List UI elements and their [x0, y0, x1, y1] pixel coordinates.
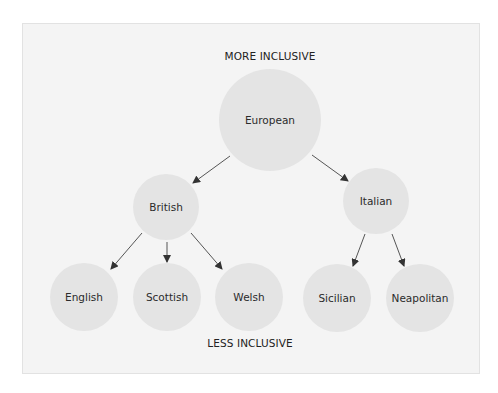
node-british: British — [133, 174, 199, 240]
node-scottish: Scottish — [133, 263, 201, 331]
node-english: English — [50, 263, 118, 331]
edge-british-english — [111, 233, 142, 269]
node-welsh: Welsh — [215, 263, 283, 331]
node-italian: Italian — [343, 168, 409, 234]
node-neapolitan: Neapolitan — [386, 264, 454, 332]
edge-italian-sicilian — [353, 234, 365, 266]
node-sicilian-label: Sicilian — [318, 292, 355, 304]
node-european: European — [219, 69, 321, 171]
node-italian-label: Italian — [360, 195, 393, 207]
edge-italian-neapolitan — [392, 234, 404, 266]
node-english-label: English — [65, 291, 103, 303]
edge-european-italian — [312, 155, 348, 181]
edge-european-british — [193, 156, 230, 183]
edge-british-welsh — [191, 233, 222, 269]
less-inclusive-label: LESS INCLUSIVE — [207, 337, 292, 349]
node-welsh-label: Welsh — [233, 291, 264, 303]
node-british-label: British — [149, 201, 183, 213]
more-inclusive-label: MORE INCLUSIVE — [225, 50, 316, 62]
node-sicilian: Sicilian — [303, 264, 371, 332]
hierarchy-diagram: MORE INCLUSIVE European British Italian … — [0, 0, 498, 393]
node-european-label: European — [245, 114, 295, 126]
node-neapolitan-label: Neapolitan — [392, 292, 449, 304]
node-scottish-label: Scottish — [146, 291, 188, 303]
